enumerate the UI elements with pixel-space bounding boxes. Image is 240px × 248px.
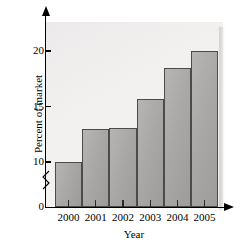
x-tick-2003	[150, 200, 151, 207]
bar-chart-figure: 0101520 Percent of market 20002001200220…	[0, 0, 240, 248]
bar-2004	[164, 68, 191, 207]
y-axis-title: Percent of market	[32, 34, 44, 194]
bar-2001	[82, 129, 109, 207]
x-tick-label-2005: 2005	[189, 211, 221, 223]
x-axis-arrow-icon	[224, 203, 234, 211]
x-tick-2000	[68, 200, 69, 207]
x-tick-2004	[177, 200, 178, 207]
y-axis-arrow-icon	[42, 6, 50, 16]
y-tick-label-0: 0	[39, 201, 45, 212]
bar-2003	[137, 99, 164, 207]
y-tick-20	[46, 50, 51, 51]
y-tick-15	[46, 106, 51, 107]
bar-2005	[191, 51, 218, 207]
y-tick-10	[46, 161, 51, 162]
x-tick-2002	[122, 200, 123, 207]
x-tick-2005	[204, 200, 205, 207]
bar-2002	[109, 128, 136, 207]
x-tick-2001	[95, 200, 96, 207]
x-axis-line	[45, 207, 225, 208]
x-axis-title: Year	[45, 228, 223, 240]
